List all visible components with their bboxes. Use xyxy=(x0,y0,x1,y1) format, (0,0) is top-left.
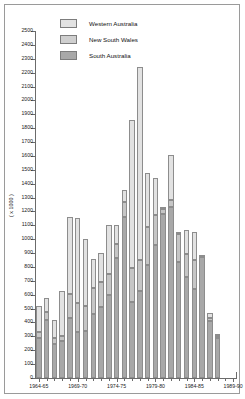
bar-segment xyxy=(122,217,127,378)
bar-segment xyxy=(192,289,197,378)
bar-segment xyxy=(199,257,204,378)
x-tick-mark xyxy=(70,378,71,381)
x-tick-mark xyxy=(62,378,63,381)
bar-1973-74 xyxy=(106,25,111,378)
y-tick-label: 1400 xyxy=(21,181,33,186)
bar-segment xyxy=(215,334,220,337)
bar-segment xyxy=(83,239,88,306)
bar-1976-77 xyxy=(129,25,134,378)
x-tick-mark xyxy=(78,378,79,382)
bar-segment xyxy=(160,214,165,378)
x-tick-mark xyxy=(109,378,110,381)
y-tick-label: 1200 xyxy=(21,209,33,214)
bar-segment xyxy=(59,341,64,378)
bar-segment xyxy=(67,217,72,294)
x-tick-mark xyxy=(86,378,87,381)
bar-segment xyxy=(153,215,158,245)
y-tick-label: 900 xyxy=(24,250,33,255)
bar-segment xyxy=(114,244,119,258)
y-tick-label: 2200 xyxy=(21,70,33,75)
y-tick-label: 1100 xyxy=(22,223,33,228)
bar-segment xyxy=(106,295,111,378)
bar-segment xyxy=(114,258,119,378)
x-tick-mark xyxy=(124,378,125,381)
bar-segment xyxy=(176,232,181,234)
y-tick-label: 200 xyxy=(24,348,33,353)
bar-segment xyxy=(137,67,142,260)
bar-segment xyxy=(52,344,57,378)
x-tick-mark xyxy=(202,378,203,381)
bar-1978-79 xyxy=(145,25,150,378)
bar-segment xyxy=(59,336,64,342)
bar-1967-68 xyxy=(59,25,64,378)
bar-segment xyxy=(91,288,96,314)
x-tick-mark xyxy=(54,378,55,381)
bar-1985-86 xyxy=(199,25,204,378)
bar-segment xyxy=(44,312,49,320)
bar-segment xyxy=(59,291,64,335)
bar-segment xyxy=(129,120,134,269)
y-tick-label: 600 xyxy=(24,292,33,297)
x-tick-label: 1964-65 xyxy=(29,384,48,389)
bar-1969-70 xyxy=(75,25,80,378)
y-tick-label: 1600 xyxy=(21,153,33,158)
bar-segment xyxy=(145,227,150,264)
y-tick-label: 800 xyxy=(24,264,33,269)
bar-1974-75 xyxy=(114,25,119,378)
bar-segment xyxy=(98,253,103,281)
x-tick-mark xyxy=(117,378,118,382)
bar-segment xyxy=(199,255,204,257)
bar-segment xyxy=(75,218,80,303)
x-axis-line xyxy=(35,378,237,379)
y-tick-label: 2100 xyxy=(21,84,33,89)
y-tick-label: 2500 xyxy=(21,28,33,33)
bar-segment xyxy=(184,230,189,255)
x-tick-label: 1974-75 xyxy=(107,384,126,389)
y-tick-label: 400 xyxy=(24,320,33,325)
bar-segment xyxy=(52,320,57,338)
bar-segment xyxy=(36,338,41,378)
x-tick-mark xyxy=(101,378,102,381)
bar-1971-72 xyxy=(91,25,96,378)
bar-1968-69 xyxy=(67,25,72,378)
y-tick-label: 700 xyxy=(24,278,33,283)
x-tick-label: 1984-85 xyxy=(185,384,204,389)
bar-1965-66 xyxy=(44,25,49,378)
y-tick-label: 2000 xyxy=(21,98,33,103)
chart-frame: Western Australia New South Wales South … xyxy=(4,4,240,394)
x-axis-right-cap xyxy=(236,372,237,378)
bar-segment xyxy=(137,291,142,378)
bar-segment xyxy=(83,306,88,331)
bar-segment xyxy=(106,225,111,274)
bar-segment xyxy=(36,332,41,338)
x-tick-mark xyxy=(210,378,211,381)
bar-segment xyxy=(91,259,96,287)
y-tick-label: 500 xyxy=(24,306,33,311)
y-tick-label: 1300 xyxy=(21,195,33,200)
bar-segment xyxy=(44,298,49,312)
bar-segment xyxy=(192,232,197,260)
x-tick-mark xyxy=(218,378,219,381)
bar-segment xyxy=(168,155,173,200)
bar-segment xyxy=(176,262,181,378)
x-tick-mark xyxy=(93,378,94,381)
bar-segment xyxy=(129,268,134,302)
bar-segment xyxy=(129,302,134,378)
bar-segment xyxy=(106,274,111,296)
bar-segment xyxy=(83,331,88,378)
bar-1979-80 xyxy=(153,25,158,378)
bar-1964-65 xyxy=(36,25,41,378)
bar-segment xyxy=(207,318,212,321)
bar-1982-83 xyxy=(176,25,181,378)
plot-area: 0100200300400500600700800900100011001200… xyxy=(35,25,237,378)
x-tick-label: 1969-70 xyxy=(68,384,87,389)
x-tick-mark xyxy=(155,378,156,382)
y-tick-label: 2400 xyxy=(21,42,33,47)
x-tick-mark xyxy=(187,378,188,381)
bar-segment xyxy=(184,254,189,277)
bar-segment xyxy=(122,190,127,202)
bar-segment xyxy=(207,313,212,317)
y-tick-label: 2300 xyxy=(21,56,33,61)
bar-segment xyxy=(153,245,158,378)
bar-segment xyxy=(145,265,150,378)
